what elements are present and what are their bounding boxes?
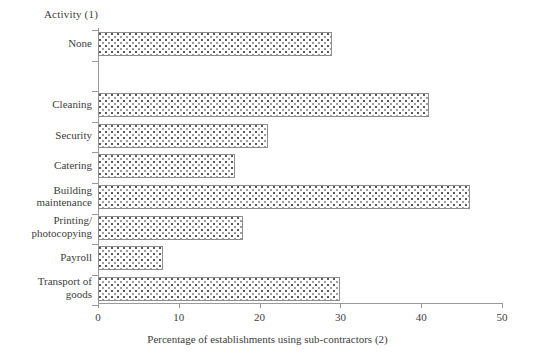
category-label-line: goods xyxy=(0,288,92,301)
bar-rect xyxy=(98,154,235,178)
x-axis-title: Percentage of establishments using sub-c… xyxy=(0,333,535,345)
x-axis-tick xyxy=(502,303,503,308)
bar-rect xyxy=(98,124,268,148)
category-label: None xyxy=(0,37,92,50)
y-axis-tick xyxy=(92,61,98,62)
category-label: Transport ofgoods xyxy=(0,275,92,300)
x-axis-tick xyxy=(98,303,99,308)
x-axis-tick-label: 40 xyxy=(401,311,441,323)
category-label-line: Security xyxy=(0,129,92,142)
category-label: Payroll xyxy=(0,251,92,264)
y-axis-tick xyxy=(92,275,98,276)
x-axis-tick-label: 20 xyxy=(240,311,280,323)
y-axis-tick xyxy=(92,91,98,92)
x-axis-tick-label: 30 xyxy=(320,311,360,323)
category-label-line: Transport of xyxy=(0,275,92,288)
category-label-line: None xyxy=(0,37,92,50)
y-axis-tick xyxy=(92,152,98,153)
y-axis-tick xyxy=(92,183,98,184)
category-label-line: Payroll xyxy=(0,251,92,264)
x-axis-line xyxy=(98,303,502,304)
category-label: Security xyxy=(0,129,92,142)
bar-rect xyxy=(98,216,243,240)
category-label: Cleaning xyxy=(0,98,92,111)
bar-rect xyxy=(98,185,470,209)
x-axis-tick xyxy=(260,303,261,308)
x-axis-tick-label: 50 xyxy=(482,311,522,323)
bar-rect xyxy=(98,32,332,56)
y-axis-tick xyxy=(92,244,98,245)
y-axis-title: Activity (1) xyxy=(0,8,98,20)
category-label-line: Building xyxy=(0,184,92,197)
category-label: Printing/photocopying xyxy=(0,214,92,239)
y-axis-tick xyxy=(92,122,98,123)
category-label-line: Printing/ xyxy=(0,214,92,227)
x-axis-tick xyxy=(179,303,180,308)
bar-rect xyxy=(98,277,340,301)
y-axis-tick xyxy=(92,214,98,215)
bar-chart: Activity (1) NoneCleaningSecurityCaterin… xyxy=(0,0,535,364)
category-label-line: photocopying xyxy=(0,227,92,240)
category-label: Catering xyxy=(0,159,92,172)
x-axis-tick-label: 0 xyxy=(78,311,118,323)
category-label-line: Cleaning xyxy=(0,98,92,111)
category-label-line: Catering xyxy=(0,159,92,172)
x-axis-tick-label: 10 xyxy=(159,311,199,323)
category-label-line: maintenance xyxy=(0,196,92,209)
y-axis-tick xyxy=(92,30,98,31)
category-label: Buildingmaintenance xyxy=(0,184,92,209)
x-axis-tick xyxy=(421,303,422,308)
bar-rect xyxy=(98,246,163,270)
x-axis-tick xyxy=(340,303,341,308)
bar-rect xyxy=(98,93,429,117)
